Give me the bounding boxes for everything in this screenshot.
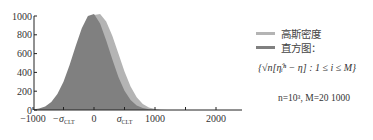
x-tick-label: 1000	[145, 113, 165, 124]
x-tick-label: 2000	[206, 113, 226, 124]
x-tick-label: −1000	[20, 113, 46, 124]
legend-swatch-histogram	[256, 46, 275, 49]
legend-label-histogram: 直方图：	[281, 40, 321, 55]
x-tick-label: −σCLT	[52, 113, 75, 125]
y-tick-label: 800	[17, 29, 32, 40]
y-tick-label: 400	[17, 67, 32, 78]
x-tick-label: σCLT	[117, 113, 133, 125]
y-tick-label: 600	[17, 48, 32, 59]
histogram-area	[33, 14, 167, 110]
legend-item-histogram: 直方图：	[256, 40, 373, 54]
legend-formula: {√n[η̂ᵢⁿ − η] : 1 ≤ i ≤ M}	[258, 62, 356, 73]
legend-params: n=10³, M=20 1000	[278, 93, 350, 103]
legend: 高斯密度 直方图：	[256, 26, 373, 54]
y-tick-label: 200	[17, 86, 32, 97]
legend-item-gaussian: 高斯密度	[256, 26, 373, 40]
series-areas	[33, 14, 167, 110]
legend-swatch-gaussian	[256, 32, 275, 35]
x-tick-label: 0	[92, 113, 97, 124]
y-tick-label: 1000	[12, 11, 32, 22]
legend-label-gaussian: 高斯密度	[281, 26, 321, 41]
